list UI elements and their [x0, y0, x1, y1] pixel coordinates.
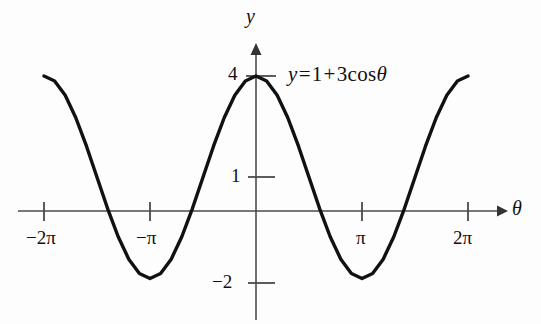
- x-axis-label: θ: [512, 198, 522, 218]
- x-tick-label-pi: π: [356, 228, 366, 247]
- equation-equals: =: [298, 62, 312, 86]
- equation-argument: θ: [376, 62, 387, 86]
- plot-svg: [0, 0, 541, 324]
- equation-coefficient: 3: [337, 62, 348, 86]
- y-axis-label: y: [246, 6, 255, 26]
- figure-canvas: 4 1 −2 −2π −π π 2π y θ y=1+3cosθ: [0, 0, 541, 324]
- x-tick-label-minus-pi: −π: [136, 228, 156, 247]
- equation-annotation: y=1+3cosθ: [288, 64, 387, 85]
- equation-plus: +: [323, 62, 337, 86]
- x-tick-label-minus-2pi: −2π: [26, 228, 56, 247]
- x-tick-label-2pi: 2π: [453, 228, 472, 247]
- y-tick-label-4: 4: [228, 64, 238, 83]
- equation-constant: 1: [312, 62, 323, 86]
- equation-function: cos: [348, 62, 377, 86]
- y-tick-label-minus-2: −2: [212, 272, 232, 291]
- y-tick-label-1: 1: [231, 166, 241, 185]
- y-axis-arrow-icon: [251, 43, 262, 55]
- equation-lhs: y: [288, 62, 298, 86]
- x-axis-arrow-icon: [497, 206, 508, 217]
